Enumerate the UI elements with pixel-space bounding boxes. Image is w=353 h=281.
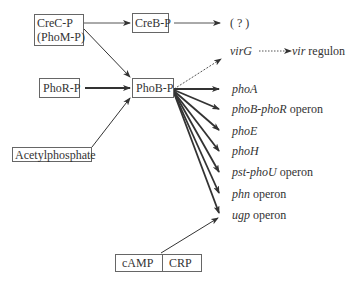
gene-suffix: operon bbox=[290, 102, 323, 116]
target-phoa: phoA bbox=[232, 82, 257, 96]
gene-name: phoE bbox=[232, 124, 257, 138]
gene-name: phoH bbox=[232, 144, 259, 158]
target-phn: phn operon bbox=[232, 187, 286, 201]
arrow-phob-pst bbox=[174, 92, 219, 172]
node-crp: CRP bbox=[162, 255, 198, 271]
node-crec-p-label: CreC-P bbox=[37, 16, 81, 30]
arrow-crec-phob bbox=[84, 29, 130, 77]
gene-name: phoA bbox=[232, 82, 257, 96]
gene-name: ugp bbox=[232, 208, 250, 222]
gene-suffix: operon bbox=[280, 165, 313, 179]
regulon-label: regulon bbox=[308, 44, 345, 58]
arrow-crp-ugp bbox=[161, 218, 218, 253]
node-camp-crp: cAMP CRP bbox=[115, 254, 202, 272]
node-phob-p: PhoB-P bbox=[132, 78, 174, 98]
arrow-acetyl-phob bbox=[92, 98, 130, 147]
gene-name: pst-phoU bbox=[232, 165, 277, 179]
target-phoh: phoH bbox=[232, 144, 259, 158]
target-phob-phor: phoB-phoR operon bbox=[232, 102, 323, 116]
vir-row: virG bbox=[230, 44, 252, 58]
gene-suffix: operon bbox=[253, 208, 286, 222]
target-pst-phou: pst-phoU operon bbox=[232, 165, 313, 179]
gene-virg: virG bbox=[230, 44, 252, 58]
node-creb-p: CreB-P bbox=[132, 13, 169, 33]
node-phor-p: PhoR-P bbox=[39, 78, 80, 98]
node-crec-p: CreC-P (PhoM-P) bbox=[34, 14, 84, 46]
node-camp: cAMP bbox=[116, 255, 162, 271]
vir-regulon: vir regulon bbox=[292, 44, 345, 58]
unknown-target: ( ? ) bbox=[230, 16, 249, 30]
gene-name: phn bbox=[232, 187, 250, 201]
gene-vir: vir bbox=[292, 44, 305, 58]
arrow-phob-virg bbox=[174, 59, 221, 89]
gene-name: phoB-phoR bbox=[232, 102, 287, 116]
node-acetylphosphate: Acetylphosphate bbox=[12, 147, 92, 162]
target-phoe: phoE bbox=[232, 124, 257, 138]
node-crec-p-alias: (PhoM-P) bbox=[37, 30, 81, 44]
gene-suffix: operon bbox=[253, 187, 286, 201]
target-ugp: ugp operon bbox=[232, 208, 286, 222]
